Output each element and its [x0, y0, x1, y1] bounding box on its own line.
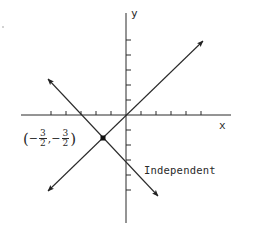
denominator: 2	[63, 139, 69, 148]
independent-annotation: Independent	[144, 164, 216, 176]
close-paren: )	[70, 130, 76, 148]
x-axis-label: x	[219, 119, 226, 132]
coordinate-plane	[0, 0, 254, 225]
denominator: 2	[40, 139, 46, 148]
intersection-label: ( − 3 2 , − 3 2 )	[23, 129, 76, 148]
minus-sign: −	[51, 132, 60, 145]
fraction-x: 3 2	[39, 129, 47, 148]
intersection-point	[101, 136, 106, 141]
y-axis-label: y	[131, 7, 138, 20]
fraction-y: 3 2	[62, 129, 70, 148]
speck	[2, 26, 4, 28]
minus-sign: −	[29, 132, 38, 145]
